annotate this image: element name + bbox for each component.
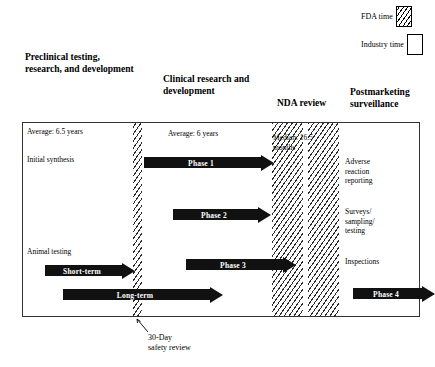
legend: FDA time Industry time xyxy=(361,6,423,62)
activity-label-initial-synthesis: Initial synthesis xyxy=(27,155,74,165)
arrow-head-icon xyxy=(261,155,274,171)
legend-swatch-industry-empty-box xyxy=(407,34,423,55)
column-header-postmarketing-surveillance: Postmarketing surveillance xyxy=(350,87,430,110)
activity-label-surveys-sampling-testing: Surveys/ sampling/ testing xyxy=(345,207,405,236)
timeline-chart-box: Average: 6.5 years Average: 6 years Medi… xyxy=(22,122,420,317)
legend-label-fda-time: FDA time xyxy=(361,12,396,21)
callout-leader-line-icon xyxy=(135,318,149,333)
phase-arrow-long-term: Long-term xyxy=(63,287,223,302)
legend-swatch-fda-hatched-box xyxy=(396,6,412,27)
legend-item-fda-time: FDA time xyxy=(361,6,412,27)
column-header-preclinical: Preclinical testing, research, and devel… xyxy=(25,52,135,75)
phase-arrow-phase-4: Phase 4 xyxy=(353,286,435,301)
activity-label-animal-testing: Animal testing xyxy=(27,247,71,257)
callout-30-day-safety-review: 30-Day safety review xyxy=(148,333,191,353)
phase-arrow-phase-3: Phase 3 xyxy=(186,257,296,272)
arrow-head-icon xyxy=(422,286,435,302)
arrow-head-icon xyxy=(283,257,296,273)
phase-arrow-label-phase-4: Phase 4 xyxy=(353,289,419,298)
phase-arrow-label-phase-1: Phase 1 xyxy=(144,158,258,167)
duration-label-average-clinical: Average: 6 years xyxy=(168,129,218,139)
arrow-head-icon xyxy=(210,287,223,303)
phase-arrow-short-term: Short-term xyxy=(45,263,135,278)
activity-label-adverse-reaction-reporting: Adverse reaction reporting xyxy=(345,157,405,186)
phase-arrow-label-long-term: Long-term xyxy=(63,290,207,299)
legend-item-industry-time: Industry time xyxy=(361,34,423,55)
column-header-nda-review: NDA review xyxy=(277,98,357,110)
activity-label-inspections: Inspections xyxy=(345,257,405,267)
phase-arrow-phase-1: Phase 1 xyxy=(144,155,274,170)
phase-arrow-label-short-term: Short-term xyxy=(45,266,119,275)
arrow-head-icon xyxy=(258,207,271,223)
phase-arrow-phase-2: Phase 2 xyxy=(173,207,271,222)
column-header-clinical: Clinical research and development xyxy=(163,74,268,97)
duration-label-average-preclinical: Average: 6.5 years xyxy=(27,127,83,137)
phase-arrow-label-phase-3: Phase 3 xyxy=(186,260,280,269)
arrow-head-icon xyxy=(122,263,135,279)
phase-arrow-label-phase-2: Phase 2 xyxy=(173,210,255,219)
duration-label-median-nda-review: Median: 16.5 months xyxy=(273,133,323,152)
legend-label-industry-time: Industry time xyxy=(361,40,407,49)
